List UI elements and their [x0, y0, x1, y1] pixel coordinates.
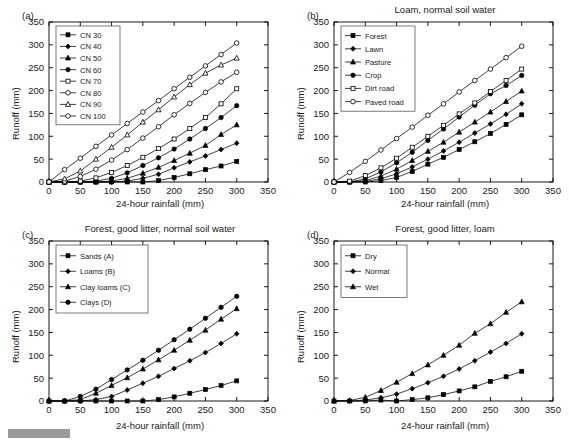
svg-text:200: 200: [166, 404, 182, 415]
svg-text:CN 90: CN 90: [80, 100, 102, 109]
svg-text:Normal: Normal: [365, 267, 390, 276]
svg-text:100: 100: [104, 404, 120, 415]
panel-a-plot: 0501001502002503003500501001502002503003…: [0, 0, 285, 215]
svg-text:250: 250: [197, 404, 213, 415]
svg-text:50: 50: [360, 185, 371, 196]
svg-text:CN 70: CN 70: [80, 77, 102, 86]
svg-text:100: 100: [313, 350, 329, 361]
panel-c: (c) Forest, good litter, normal soil wat…: [0, 215, 285, 440]
svg-text:150: 150: [28, 327, 44, 338]
svg-text:CN 40: CN 40: [80, 42, 102, 51]
svg-text:Paved road: Paved road: [365, 98, 404, 107]
panel-d-plot: 0501001502002503003500501001502002503003…: [285, 215, 569, 440]
svg-text:150: 150: [313, 327, 329, 338]
svg-text:300: 300: [28, 39, 44, 50]
svg-text:300: 300: [229, 185, 245, 196]
panel-a: (a) 050100150200250300350050100150200250…: [0, 0, 285, 215]
svg-text:200: 200: [451, 185, 467, 196]
svg-text:CN 60: CN 60: [80, 66, 102, 75]
svg-text:0: 0: [39, 395, 44, 406]
svg-text:250: 250: [313, 281, 329, 292]
svg-text:0: 0: [331, 185, 336, 196]
svg-text:250: 250: [197, 185, 213, 196]
panel-d: (d) Forest, good litter, loam 0501001502…: [285, 215, 569, 440]
svg-text:Forest: Forest: [365, 32, 387, 41]
svg-text:350: 350: [260, 404, 276, 415]
svg-text:CN 100: CN 100: [80, 112, 106, 121]
panel-b-plot: 0501001502002503003500501001502002503003…: [285, 0, 569, 215]
svg-text:150: 150: [313, 108, 329, 119]
panel-c-ylabel: Runoff (mm): [10, 310, 21, 363]
svg-text:0: 0: [46, 404, 51, 415]
svg-text:0: 0: [39, 176, 44, 187]
svg-text:150: 150: [420, 185, 436, 196]
svg-text:200: 200: [451, 404, 467, 415]
svg-text:250: 250: [28, 62, 44, 73]
svg-text:250: 250: [28, 281, 44, 292]
svg-text:50: 50: [75, 404, 86, 415]
svg-text:300: 300: [514, 404, 530, 415]
svg-text:150: 150: [420, 404, 436, 415]
svg-text:50: 50: [318, 373, 329, 384]
panel-c-xlabel: 24-hour rainfall (mm): [45, 420, 275, 431]
svg-text:CN 30: CN 30: [80, 31, 102, 40]
svg-text:300: 300: [313, 258, 329, 269]
svg-text:0: 0: [331, 404, 336, 415]
svg-text:Clays (D): Clays (D): [80, 298, 112, 307]
panel-b-xlabel: 24-hour rainfall (mm): [330, 198, 560, 209]
svg-text:100: 100: [389, 404, 405, 415]
svg-text:Wet: Wet: [365, 283, 379, 292]
svg-text:100: 100: [104, 185, 120, 196]
svg-text:200: 200: [313, 304, 329, 315]
svg-text:350: 350: [260, 185, 276, 196]
svg-text:100: 100: [28, 350, 44, 361]
panel-b: (b) Loam, normal soil water 050100150200…: [285, 0, 569, 215]
svg-text:300: 300: [313, 39, 329, 50]
svg-text:50: 50: [318, 154, 329, 165]
svg-text:350: 350: [313, 235, 329, 246]
svg-text:300: 300: [229, 404, 245, 415]
svg-text:350: 350: [545, 404, 561, 415]
svg-text:0: 0: [324, 176, 329, 187]
svg-text:300: 300: [28, 258, 44, 269]
svg-text:100: 100: [313, 131, 329, 142]
svg-text:250: 250: [482, 404, 498, 415]
figure-runoff-rainfall-panels: (a) 050100150200250300350050100150200250…: [0, 0, 569, 443]
page-artifact-bar: [8, 429, 70, 438]
svg-text:150: 150: [135, 185, 151, 196]
svg-text:Dry: Dry: [365, 252, 377, 261]
svg-text:Sands (A): Sands (A): [80, 252, 114, 261]
svg-text:0: 0: [324, 395, 329, 406]
svg-text:0: 0: [46, 185, 51, 196]
svg-text:Pasture: Pasture: [365, 58, 391, 67]
svg-text:50: 50: [75, 185, 86, 196]
svg-text:350: 350: [313, 16, 329, 27]
panel-c-plot: 0501001502002503003500501001502002503003…: [0, 215, 285, 440]
panel-d-xlabel: 24-hour rainfall (mm): [330, 420, 560, 431]
svg-text:CN 50: CN 50: [80, 54, 102, 63]
svg-text:50: 50: [33, 373, 44, 384]
svg-text:200: 200: [28, 85, 44, 96]
svg-text:250: 250: [482, 185, 498, 196]
panel-b-ylabel: Runoff (mm): [295, 87, 306, 140]
svg-text:350: 350: [545, 185, 561, 196]
panel-a-ylabel: Runoff (mm): [10, 87, 21, 140]
svg-text:200: 200: [166, 185, 182, 196]
svg-text:Crop: Crop: [365, 71, 381, 80]
svg-text:200: 200: [313, 85, 329, 96]
svg-text:150: 150: [135, 404, 151, 415]
svg-text:CN 80: CN 80: [80, 89, 102, 98]
panel-a-xlabel: 24-hour rainfall (mm): [45, 198, 275, 209]
svg-text:250: 250: [313, 62, 329, 73]
svg-text:150: 150: [28, 108, 44, 119]
svg-text:350: 350: [28, 235, 44, 246]
svg-text:50: 50: [360, 404, 371, 415]
svg-text:Loams (B): Loams (B): [80, 267, 115, 276]
svg-text:Lawn: Lawn: [365, 45, 383, 54]
svg-text:300: 300: [514, 185, 530, 196]
svg-text:350: 350: [28, 16, 44, 27]
svg-text:Clay loams (C): Clay loams (C): [80, 283, 131, 292]
svg-text:100: 100: [389, 185, 405, 196]
svg-text:100: 100: [28, 131, 44, 142]
svg-text:Dirt road: Dirt road: [365, 84, 394, 93]
